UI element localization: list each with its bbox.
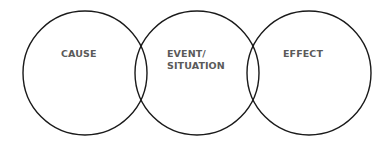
- effect-circle: [247, 11, 371, 135]
- event-label-line2: SITUATION: [167, 60, 225, 72]
- event-circle: [135, 11, 259, 135]
- event-label-line1: EVENT/: [167, 48, 206, 60]
- cause-label: CAUSE: [61, 48, 97, 60]
- effect-label: EFFECT: [283, 48, 323, 60]
- cause-circle: [23, 11, 147, 135]
